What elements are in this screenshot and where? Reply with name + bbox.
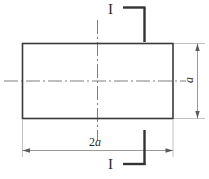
section-mark-bottom — [123, 130, 146, 165]
section-label-top: I — [108, 2, 113, 17]
diagram-canvas: I I 2a a — [0, 0, 209, 179]
section-view-drawing — [0, 0, 209, 179]
arrowhead-left-icon — [23, 148, 31, 153]
arrowhead-right-icon — [166, 148, 174, 153]
width-dimension-label-var: a — [95, 135, 101, 149]
arrowhead-down-icon — [195, 111, 199, 119]
centerlines — [4, 20, 186, 141]
arrowhead-up-icon — [195, 44, 199, 52]
extension-lines — [23, 44, 206, 158]
section-label-bottom: I — [108, 157, 113, 172]
width-dimension-label: 2a — [89, 136, 101, 148]
height-dimension-label-var: a — [182, 77, 196, 83]
height-dimension-label: a — [183, 77, 195, 83]
section-mark-top — [123, 8, 146, 43]
